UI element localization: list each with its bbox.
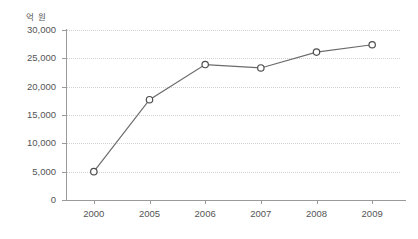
x-axis-tick-label: 2009: [342, 209, 402, 219]
data-point-marker: [146, 97, 152, 103]
x-axis-tick-mark: [94, 200, 95, 204]
data-point-marker: [202, 61, 208, 67]
y-axis-tick-label: 5,000: [0, 167, 56, 177]
y-axis-tick-label: 15,000: [0, 110, 56, 120]
x-axis-tick-mark: [261, 200, 262, 204]
y-axis-tick-mark: [62, 143, 66, 144]
y-axis-tick-label: 25,000: [0, 54, 56, 64]
x-axis-tick-label: 2007: [231, 209, 291, 219]
y-axis-tick-mark: [62, 172, 66, 173]
line-chart-figure: 억 원 05,00010,00015,00020,00025,00030,000…: [0, 0, 418, 239]
y-axis-tick-mark: [62, 200, 66, 201]
data-point-marker: [91, 168, 97, 174]
y-axis-tick-mark: [62, 58, 66, 59]
x-axis-tick-mark: [317, 200, 318, 204]
y-axis-tick-label: 0: [0, 195, 56, 205]
series-line: [94, 45, 372, 172]
series-layer: [0, 0, 418, 239]
x-axis-tick-label: 2005: [120, 209, 180, 219]
x-axis-tick-label: 2000: [64, 209, 124, 219]
series-markers: [91, 42, 376, 175]
data-point-marker: [313, 49, 319, 55]
x-axis-tick-mark: [372, 200, 373, 204]
y-axis-tick-mark: [62, 30, 66, 31]
x-axis-tick-label: 2006: [175, 209, 235, 219]
x-axis-tick-label: 2008: [287, 209, 347, 219]
x-axis-tick-mark: [205, 200, 206, 204]
data-point-marker: [258, 65, 264, 71]
y-axis-tick-label: 30,000: [0, 25, 56, 35]
y-axis-tick-label: 10,000: [0, 139, 56, 149]
x-axis-tick-mark: [150, 200, 151, 204]
y-axis-tick-mark: [62, 115, 66, 116]
y-axis-tick-mark: [62, 87, 66, 88]
data-point-marker: [369, 42, 375, 48]
y-axis-tick-label: 20,000: [0, 82, 56, 92]
